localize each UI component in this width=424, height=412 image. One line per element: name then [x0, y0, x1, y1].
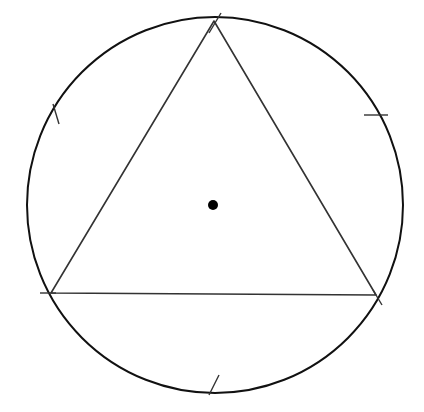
center-point [208, 200, 218, 210]
inscribed-triangle-diagram [0, 0, 424, 412]
